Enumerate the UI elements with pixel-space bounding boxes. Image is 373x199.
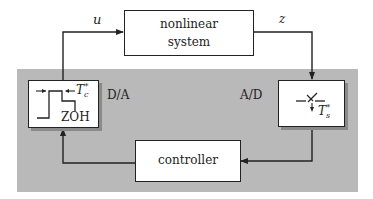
u-signal-label: u [93, 12, 101, 27]
controller-block: controller [135, 140, 241, 182]
adc-to-controller-line [241, 127, 312, 161]
plant-label-line2: system [125, 35, 253, 50]
zoh-period-label: Tc* [76, 82, 89, 99]
controller-to-zoh-line [63, 129, 135, 163]
controller-label: controller [136, 153, 240, 168]
u-signal-line [63, 32, 123, 80]
plant-label-line1: nonlinear [125, 17, 253, 32]
sampler-period-label: Ts* [318, 103, 330, 120]
z-signal-label: z [279, 12, 285, 26]
nonlinear-system-block: nonlinear system [124, 10, 254, 56]
adc-sampler-block: Ts* [278, 80, 345, 127]
zoh-dac-block: Tc* ZOH [28, 80, 99, 128]
sampler-switch-icon [279, 81, 343, 125]
z-signal-line [254, 32, 312, 79]
adc-side-label: A/D [240, 88, 262, 102]
zoh-label: ZOH [61, 110, 90, 124]
dac-side-label: D/A [107, 88, 129, 102]
